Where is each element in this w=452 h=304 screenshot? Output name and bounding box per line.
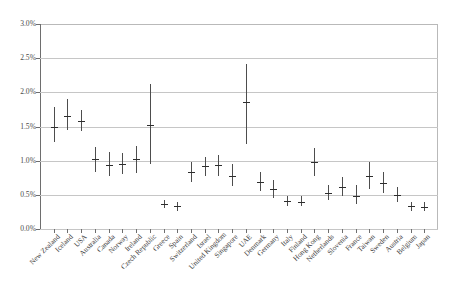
data-point-marker — [284, 201, 291, 202]
data-point-marker — [325, 193, 332, 194]
data-point-marker — [257, 182, 264, 183]
data-point-marker — [298, 202, 305, 203]
data-point-marker — [353, 196, 360, 197]
data-point-marker — [147, 125, 154, 126]
data-point-marker — [380, 183, 387, 184]
data-point-marker — [174, 206, 181, 207]
data-point-marker — [408, 206, 415, 207]
data-point-marker — [106, 165, 113, 166]
data-point-marker — [339, 187, 346, 188]
data-range-bar — [67, 99, 68, 130]
data-point-marker — [64, 116, 71, 117]
data-point-marker — [421, 207, 428, 208]
data-point-marker — [202, 166, 209, 167]
data-point-marker — [229, 176, 236, 177]
data-point-marker — [51, 127, 58, 128]
data-point-marker — [215, 165, 222, 166]
data-range-bar — [54, 107, 55, 143]
data-range-bar — [150, 84, 151, 164]
data-point-marker — [270, 189, 277, 190]
data-point-marker — [133, 159, 140, 160]
data-point-marker — [161, 204, 168, 205]
chart-container: 3.0%2.5%2.0%1.5%1.0%0.5%0.0% New Zealand… — [0, 0, 452, 304]
data-point-marker — [92, 159, 99, 160]
data-point-marker — [243, 102, 250, 103]
data-point-marker — [78, 121, 85, 122]
data-point-marker — [366, 176, 373, 177]
data-point-marker — [119, 164, 126, 165]
data-point-marker — [311, 162, 318, 163]
data-range-bar — [246, 64, 247, 143]
data-point-marker — [394, 195, 401, 196]
data-point-marker — [188, 172, 195, 173]
